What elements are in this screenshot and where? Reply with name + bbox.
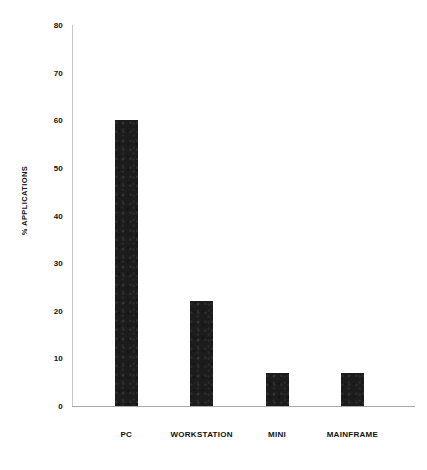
y-tick-label: 60 bbox=[54, 116, 63, 125]
y-tick-label: 50 bbox=[54, 163, 63, 172]
y-tick-label: 20 bbox=[54, 306, 63, 315]
bar bbox=[341, 373, 364, 406]
y-tick-label: 80 bbox=[54, 21, 63, 30]
bar bbox=[266, 373, 289, 406]
x-tick-label: PC bbox=[120, 430, 132, 439]
y-tick-label: 0 bbox=[58, 402, 63, 411]
y-axis-title-text: % APPLICATIONS bbox=[21, 165, 30, 234]
plot-area bbox=[72, 25, 415, 406]
x-axis-tick-labels: PCWORKSTATIONMINIMAINFRAME bbox=[72, 430, 415, 450]
x-tick-label: WORKSTATION bbox=[170, 430, 233, 439]
y-axis-title: % APPLICATIONS bbox=[18, 145, 32, 255]
bar-chart: 01020304050607080 % APPLICATIONS PCWORKS… bbox=[0, 0, 427, 470]
y-tick-label: 70 bbox=[54, 68, 63, 77]
bar bbox=[115, 120, 138, 406]
y-tick-label: 10 bbox=[54, 354, 63, 363]
x-tick-label: MINI bbox=[268, 430, 286, 439]
y-tick-label: 30 bbox=[54, 259, 63, 268]
x-axis-line bbox=[72, 406, 415, 407]
x-tick-label: MAINFRAME bbox=[327, 430, 379, 439]
y-tick-label: 40 bbox=[54, 211, 63, 220]
bar bbox=[190, 301, 213, 406]
